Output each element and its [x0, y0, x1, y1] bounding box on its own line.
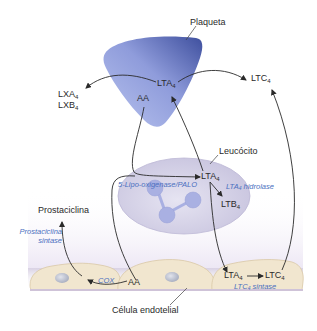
platelet-lta4: LTA4: [157, 79, 176, 89]
prostacyclin-label: Prostaciclina: [38, 206, 89, 215]
leukocyte-shape: [118, 158, 250, 234]
ltc4-sub: 4: [267, 78, 270, 84]
lxb4-label: LXB4: [58, 101, 78, 111]
ltc4-text: LTC: [265, 270, 281, 280]
lxa4-sub: 4: [75, 94, 78, 100]
lta4-sub: 4: [216, 176, 219, 182]
ltc4-synthase-enzyme: LTC4 sintase: [234, 283, 276, 292]
prostacyclin-synthase-line2: sintase: [10, 237, 62, 246]
ltb4-sub: 4: [237, 204, 240, 210]
lipoxygenase-enzyme: 5-Lipo-oxigenase/PALO: [118, 181, 197, 190]
cox-enzyme: COX: [98, 277, 114, 286]
platelet-aa: AA: [137, 94, 149, 103]
lta4-hydrolase-text: LTA: [226, 182, 239, 191]
ltb4-text: LTB: [221, 199, 237, 209]
lxb4-text: LXB: [58, 100, 75, 110]
lta4-sub: 4: [239, 275, 242, 281]
platelet-label: Plaqueta: [190, 18, 226, 27]
endothelial-lta4: LTA4: [224, 271, 243, 281]
lxa4-label: LXA4: [58, 90, 78, 100]
ltc4-text: LTC: [251, 73, 267, 83]
ltc4-sub: 4: [281, 275, 284, 281]
hydrolase-text: hidrolase: [241, 182, 274, 191]
ltc4-top-label: LTC4: [251, 74, 271, 84]
synthase-text: sintase: [250, 282, 276, 291]
endothelial-aa: AA: [128, 278, 140, 287]
ltb4-label: LTB4: [221, 200, 240, 210]
lta4-text: LTA: [224, 270, 239, 280]
lxb4-sub: 4: [75, 105, 78, 111]
prostacyclin-synthase-enzyme: Prostaciclina sintase: [10, 228, 62, 245]
leukocyte-lta4: LTA4: [201, 172, 220, 182]
lta4-sub: 4: [172, 83, 175, 89]
endothelial-ltc4: LTC4: [265, 271, 285, 281]
leukocyte-label: Leucócito: [219, 147, 258, 156]
lta4-text: LTA: [201, 171, 216, 181]
lta4-text: LTA: [157, 78, 172, 88]
platelet-shape: [104, 37, 203, 127]
transcellular-eicosanoid-diagram: Plaqueta LTA4 AA LXA4 LXB4 LTC4 Leucócit…: [0, 0, 317, 331]
endothelial-label: Célula endotelial: [112, 306, 179, 315]
lxa4-text: LXA: [58, 89, 75, 99]
ltc4-synthase-text: LTC: [234, 282, 248, 291]
lta4-hydrolase-enzyme: LTA4 hidrolase: [226, 183, 274, 192]
